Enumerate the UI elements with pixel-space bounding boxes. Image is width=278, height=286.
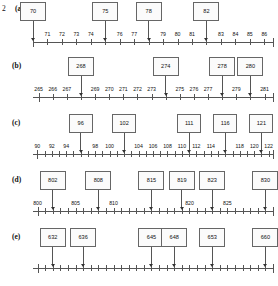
value-marker-box[interactable]: 636 [70, 228, 96, 247]
value-marker-arrow-icon [263, 207, 267, 210]
value-marker-box[interactable]: 268 [68, 57, 94, 76]
value-marker-stem [105, 21, 106, 38]
tick-label: 73 [73, 32, 79, 37]
value-marker-box[interactable]: 830 [252, 171, 278, 190]
value-marker[interactable]: 82 [193, 2, 219, 41]
axis-tick [95, 151, 96, 157]
value-marker-box[interactable]: 632 [40, 228, 66, 247]
axis-tick [227, 265, 228, 271]
tick-label: 92 [49, 144, 55, 149]
value-marker[interactable]: 268 [68, 57, 94, 96]
axis-line-d [33, 211, 273, 212]
value-marker[interactable]: 78 [136, 2, 162, 41]
axis-tick [175, 151, 176, 157]
value-marker-box[interactable]: 121 [249, 114, 273, 133]
value-marker[interactable]: 632 [40, 228, 66, 267]
value-marker[interactable]: 111 [177, 114, 201, 153]
value-marker-stem [80, 133, 81, 150]
axis-tick [250, 39, 251, 45]
value-marker-box[interactable]: 102 [112, 114, 136, 133]
tick-label: 80 [175, 32, 181, 37]
value-marker-box[interactable]: 274 [153, 57, 179, 76]
axis-tick [37, 150, 38, 159]
value-marker-box[interactable]: 278 [209, 57, 235, 76]
value-marker-box[interactable]: 111 [177, 114, 201, 133]
value-marker[interactable]: 102 [112, 114, 136, 153]
value-marker-box[interactable]: 280 [237, 57, 263, 76]
value-marker[interactable]: 274 [153, 57, 179, 96]
value-marker-box[interactable]: 653 [199, 228, 225, 247]
value-marker[interactable]: 648 [161, 228, 187, 267]
axis-tick [247, 151, 248, 157]
value-marker[interactable]: 278 [209, 57, 235, 96]
axis-tick [114, 265, 115, 271]
tick-label: 108 [163, 144, 172, 149]
value-marker-arrow-icon [147, 38, 151, 41]
value-marker-box[interactable]: 802 [40, 171, 66, 190]
row-label-e: (e) [12, 233, 20, 241]
value-marker[interactable]: 819 [169, 171, 195, 210]
value-marker-box[interactable]: 75 [92, 2, 118, 21]
axis-tick [39, 93, 40, 102]
value-marker[interactable]: 802 [40, 171, 66, 210]
axis-tick [273, 93, 274, 102]
tick-label: 805 [71, 201, 80, 206]
value-marker-arrow-icon [122, 150, 126, 153]
value-marker[interactable]: 815 [138, 171, 164, 210]
tick-label: 106 [149, 144, 158, 149]
value-marker[interactable]: 116 [213, 114, 237, 153]
value-marker[interactable]: 75 [92, 2, 118, 41]
value-marker-box[interactable]: 78 [136, 2, 162, 21]
axis-tick [235, 208, 236, 214]
axis-tick [62, 39, 63, 45]
value-marker-box[interactable]: 96 [69, 114, 93, 133]
axis-tick [110, 151, 111, 157]
axis-tick [129, 265, 130, 271]
value-marker-stem [81, 76, 82, 93]
value-marker-box[interactable]: 815 [138, 171, 164, 190]
value-marker-box[interactable]: 116 [213, 114, 237, 133]
value-marker-stem [83, 247, 84, 264]
value-marker-box[interactable]: 660 [252, 228, 278, 247]
value-marker-box[interactable]: 823 [199, 171, 225, 190]
tick-label: 270 [105, 87, 114, 92]
value-marker-box[interactable]: 648 [161, 228, 187, 247]
value-marker[interactable]: 823 [199, 171, 225, 210]
axis-line-e [33, 268, 273, 269]
axis-tick [121, 265, 122, 271]
value-marker-box[interactable]: 808 [85, 171, 111, 190]
axis-tick [197, 208, 198, 214]
value-marker-stem [225, 133, 226, 150]
value-marker[interactable]: 830 [252, 171, 278, 210]
value-marker[interactable]: 636 [70, 228, 96, 267]
value-marker[interactable]: 70 [20, 2, 46, 41]
value-marker-stem [124, 133, 125, 150]
value-marker-stem [151, 190, 152, 207]
value-marker[interactable]: 808 [85, 171, 111, 210]
value-marker-arrow-icon [259, 150, 263, 153]
value-marker-arrow-icon [149, 207, 153, 210]
value-marker-arrow-icon [81, 264, 85, 267]
value-marker[interactable]: 660 [252, 228, 278, 267]
axis-tick [123, 94, 124, 100]
value-marker[interactable]: 280 [237, 57, 263, 96]
axis-tick [153, 151, 154, 157]
question-number: 2 [2, 5, 6, 13]
value-marker-box[interactable]: 819 [169, 171, 195, 190]
value-marker-arrow-icon [79, 150, 83, 153]
value-marker-stem [222, 76, 223, 93]
axis-tick [76, 208, 77, 214]
value-marker-box[interactable]: 82 [193, 2, 219, 21]
axis-tick [109, 94, 110, 100]
value-marker-stem [265, 190, 266, 207]
axis-tick [163, 39, 164, 45]
value-marker-box[interactable]: 70 [20, 2, 46, 21]
axis-tick [250, 208, 251, 214]
value-marker-stem [206, 21, 207, 38]
axis-tick [129, 208, 130, 214]
axis-tick [221, 39, 222, 45]
axis-tick [189, 265, 190, 271]
value-marker[interactable]: 121 [249, 114, 273, 153]
value-marker[interactable]: 96 [69, 114, 93, 153]
value-marker[interactable]: 653 [199, 228, 225, 267]
